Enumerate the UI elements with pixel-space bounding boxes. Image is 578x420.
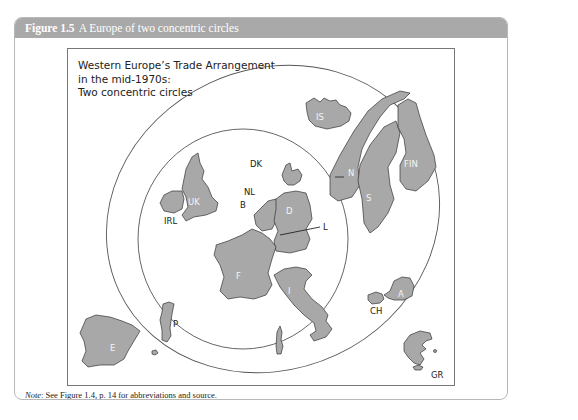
label-n: N [348, 168, 354, 178]
country-iceland [306, 98, 351, 129]
note-text: : See Figure 1.4, p. 14 for abbreviation… [41, 390, 217, 400]
label-nl: NL [244, 187, 255, 197]
label-f: F [236, 271, 241, 281]
country-portugal [160, 302, 174, 342]
country-denmark [282, 163, 302, 185]
country-switzerland [368, 292, 384, 304]
label-fin: FIN [404, 159, 418, 169]
figure-number: Figure 1.5 [25, 22, 75, 34]
country-italy [274, 267, 332, 341]
figure-note: Note: See Figure 1.4, p. 14 for abbrevia… [25, 390, 217, 400]
label-b: B [240, 200, 246, 210]
figure-frame: Figure 1.5A Europe of two concentric cir… [14, 17, 508, 400]
country-greece [404, 331, 432, 365]
label-dk: DK [250, 159, 263, 169]
label-gr: GR [431, 370, 444, 380]
country-ireland [160, 191, 184, 213]
label-s: S [366, 193, 371, 203]
country-germany [274, 191, 312, 253]
country-benelux [254, 199, 278, 231]
label-p: P [173, 319, 178, 329]
label-e: E [110, 343, 115, 353]
label-is: IS [316, 112, 324, 122]
label-d: D [286, 206, 293, 216]
note-prefix: Note [25, 390, 41, 400]
label-i: I [288, 286, 291, 296]
country-france [214, 229, 276, 299]
map-panel: IS N S FIN UK D F I E A DK NL B IRL L P … [67, 48, 455, 386]
country-corsica-sardinia [276, 326, 283, 354]
label-ch: CH [370, 306, 382, 316]
label-uk: UK [188, 197, 200, 207]
country-uk [182, 153, 218, 221]
label-l: L [323, 222, 328, 232]
figure-header: Figure 1.5A Europe of two concentric cir… [15, 18, 507, 38]
label-a: A [398, 289, 404, 299]
island-balearic [152, 350, 158, 355]
country-spain [80, 315, 140, 367]
country-finland [398, 99, 436, 191]
map-title: Western Europe’s Trade Arrangement in th… [78, 59, 275, 100]
label-irl: IRL [164, 216, 177, 226]
island-greek [434, 350, 437, 353]
figure-caption: A Europe of two concentric circles [79, 22, 239, 34]
island-crete [413, 365, 423, 370]
